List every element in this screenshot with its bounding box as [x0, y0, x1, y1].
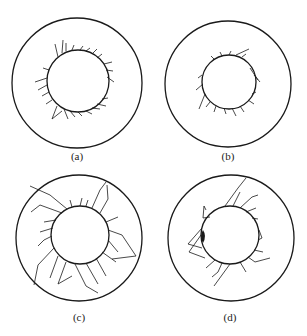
inner-circle-c: [51, 206, 109, 264]
panel-label-c: (c): [73, 311, 85, 323]
outer-circle-d: [168, 175, 294, 301]
outer-circle-a: [12, 18, 142, 148]
outer-circle-b: [165, 21, 291, 147]
inner-circle-d: [201, 206, 259, 264]
cracks-b: [196, 49, 260, 116]
inner-circle-a: [47, 50, 109, 112]
panel-label-d: (d): [224, 311, 237, 323]
panel-c-diagram: [16, 175, 142, 301]
panel-b-diagram: [165, 21, 291, 147]
panel-label-b: (b): [222, 150, 235, 162]
cracks-d: [188, 178, 270, 286]
crack-diagram: [0, 0, 307, 336]
panel-d-diagram: [168, 175, 294, 301]
panel-label-a: (a): [71, 150, 83, 162]
cracks-c: [30, 182, 136, 293]
panel-a-diagram: [12, 18, 142, 148]
inner-circle-b: [202, 55, 256, 109]
